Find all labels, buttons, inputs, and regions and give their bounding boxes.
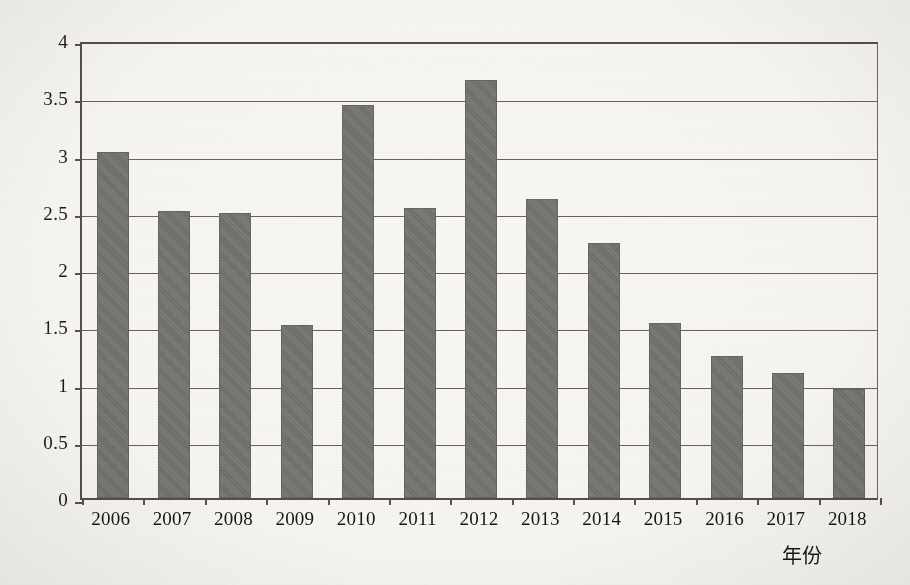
bar[interactable]: [588, 243, 620, 498]
x-axis-tick: [450, 498, 452, 505]
y-axis-tick-label: 0.5: [6, 432, 68, 454]
x-axis-tick: [573, 498, 575, 505]
x-axis-tick-label: 2010: [337, 508, 376, 530]
y-axis-tick: [75, 330, 82, 332]
bar[interactable]: [342, 105, 374, 498]
x-axis-tick: [634, 498, 636, 505]
y-axis-tick: [75, 216, 82, 218]
y-axis-labels: 00.511.522.533.54: [0, 42, 68, 500]
x-axis-tick-label: 2006: [91, 508, 130, 530]
y-axis-tick-label: 0: [6, 489, 68, 511]
bar-slot: [512, 44, 573, 498]
bar-slot: [450, 44, 511, 498]
y-axis-tick-label: 1.5: [6, 317, 68, 339]
x-axis-tick-label: 2011: [399, 508, 437, 530]
y-axis-tick: [75, 273, 82, 275]
y-axis-tick: [75, 159, 82, 161]
bar-chart: 00.511.522.533.54 2006200720082009201020…: [0, 0, 910, 585]
x-axis-tick-label: 2016: [705, 508, 744, 530]
x-axis-title: 年份: [782, 540, 822, 569]
y-axis-tick-label: 2: [6, 260, 68, 282]
y-axis-tick: [75, 388, 82, 390]
bar-slot: [757, 44, 818, 498]
x-axis-tick: [880, 498, 882, 505]
x-axis-tick: [143, 498, 145, 505]
bar-slot: [205, 44, 266, 498]
x-axis-tick-label: 2017: [767, 508, 806, 530]
bar-slot: [143, 44, 204, 498]
bar-slot: [389, 44, 450, 498]
bar-slot: [328, 44, 389, 498]
bar[interactable]: [97, 152, 129, 498]
x-axis-labels: 2006200720082009201020112012201320142015…: [80, 508, 878, 536]
x-axis-tick-label: 2013: [521, 508, 560, 530]
x-axis-tick: [266, 498, 268, 505]
x-axis-tick-label: 2007: [153, 508, 192, 530]
x-axis-tick: [328, 498, 330, 505]
x-axis-tick: [757, 498, 759, 505]
bar-slot: [573, 44, 634, 498]
bar[interactable]: [281, 325, 313, 498]
bar-slot: [266, 44, 327, 498]
bar[interactable]: [772, 373, 804, 498]
bar-slot: [696, 44, 757, 498]
bar-slot: [634, 44, 695, 498]
x-axis-tick: [696, 498, 698, 505]
x-axis-tick: [82, 498, 84, 505]
y-axis-tick: [75, 44, 82, 46]
y-axis-tick-label: 4: [6, 31, 68, 53]
y-axis-tick: [75, 502, 82, 504]
bar[interactable]: [833, 389, 865, 498]
bar-slot: [82, 44, 143, 498]
x-axis-tick: [389, 498, 391, 505]
x-axis-tick-label: 2014: [582, 508, 621, 530]
y-axis-tick-label: 1: [6, 375, 68, 397]
bar[interactable]: [465, 80, 497, 498]
x-axis-tick-label: 2009: [275, 508, 314, 530]
plot-area: [80, 42, 878, 500]
y-axis-tick-label: 3: [6, 146, 68, 168]
x-axis-tick-label: 2015: [644, 508, 683, 530]
x-axis-tick: [205, 498, 207, 505]
x-axis-tick: [512, 498, 514, 505]
y-axis-tick: [75, 101, 82, 103]
bar[interactable]: [526, 199, 558, 498]
bar[interactable]: [404, 208, 436, 498]
bar[interactable]: [158, 211, 190, 498]
y-axis-tick: [75, 445, 82, 447]
bar[interactable]: [711, 356, 743, 498]
y-axis-tick-label: 3.5: [6, 88, 68, 110]
x-axis-tick-label: 2018: [828, 508, 867, 530]
chart-page: 00.511.522.533.54 2006200720082009201020…: [0, 0, 910, 585]
x-axis-tick-label: 2012: [460, 508, 499, 530]
x-axis-tick: [819, 498, 821, 505]
bar-series: [82, 44, 877, 498]
bar[interactable]: [219, 213, 251, 498]
y-axis-tick-label: 2.5: [6, 203, 68, 225]
x-axis-tick-label: 2008: [214, 508, 253, 530]
bar-slot: [819, 44, 880, 498]
bar[interactable]: [649, 323, 681, 498]
